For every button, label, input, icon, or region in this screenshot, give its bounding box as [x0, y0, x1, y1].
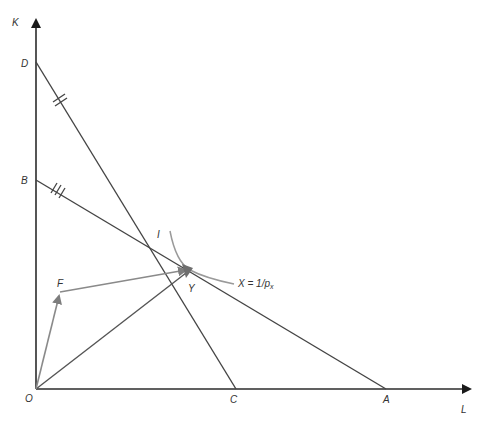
isoquant-subscript: x [269, 283, 274, 290]
diagram-canvas: K L O D B C A I Y F X = 1/px [0, 0, 485, 424]
point-i-label: I [157, 229, 160, 240]
point-c-label: C [230, 394, 238, 405]
ray-oy [36, 273, 186, 389]
k-axis-label: K [12, 17, 20, 28]
point-f-label: F [57, 278, 64, 289]
isoquant-curve [170, 231, 234, 284]
point-a-label: A [382, 394, 390, 405]
point-b-label: B [21, 175, 28, 186]
point-y-label: Y [188, 283, 196, 294]
point-d-label: D [21, 58, 28, 69]
origin-label: O [25, 393, 33, 404]
line-ba [36, 180, 386, 389]
l-axis-label: L [461, 404, 467, 415]
vector-of [36, 296, 59, 389]
vector-fy [60, 270, 186, 292]
line-dc [36, 62, 236, 389]
isoquant-label: X = 1/px [237, 278, 274, 290]
